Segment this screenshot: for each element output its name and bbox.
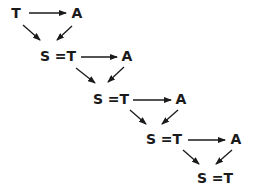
state-update-diagram: T A S =T A S =T A S =T A S =T xyxy=(0,0,255,192)
node-a3: A xyxy=(231,131,242,147)
edge-a2-s3 xyxy=(162,110,178,124)
node-t0: T xyxy=(11,5,21,21)
node-a2: A xyxy=(176,91,187,107)
node-a0: A xyxy=(72,5,83,21)
edge-s3-s4 xyxy=(183,150,199,164)
node-s2: S =T xyxy=(93,91,130,107)
node-s1: S =T xyxy=(40,48,77,64)
node-a1: A xyxy=(122,48,133,64)
edge-t0-s1 xyxy=(23,25,40,40)
edge-s1-s2 xyxy=(76,68,95,83)
node-s4: S =T xyxy=(197,170,234,186)
node-s3: S =T xyxy=(146,131,183,147)
edge-a0-s1 xyxy=(57,26,72,40)
edge-a3-s4 xyxy=(216,150,232,164)
edge-a1-s2 xyxy=(108,67,124,82)
edge-s2-s3 xyxy=(130,110,146,124)
